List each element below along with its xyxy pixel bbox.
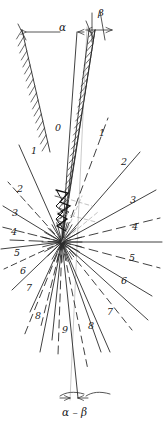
label-left-3: 3 (12, 208, 18, 218)
left-hatched-wall (17, 30, 51, 152)
label-left-6: 6 (20, 266, 26, 276)
label-right-5: 5 (129, 253, 135, 263)
label-alpha: α (59, 22, 66, 33)
left-fan-rays (1, 145, 62, 352)
figure-canvas: α β α – β 0 9 1 2 3 4 5 6 7 8 1 2 3 4 5 … (0, 0, 163, 430)
label-left-1: 1 (31, 146, 37, 156)
label-right-4: 4 (132, 222, 138, 232)
label-right-3: 3 (130, 195, 136, 205)
label-right-8: 8 (88, 321, 94, 331)
alpha-dimension (18, 21, 93, 40)
label-nine: 9 (62, 325, 68, 335)
diagram-svg (0, 0, 163, 430)
label-right-7: 7 (107, 307, 113, 317)
label-left-2: 2 (17, 184, 23, 194)
label-left-8: 8 (35, 311, 41, 321)
label-beta: β (98, 8, 104, 18)
label-right-6: 6 (121, 276, 127, 286)
alpha-minus-beta-dimension (60, 392, 110, 400)
label-alpha-minus-beta: α – β (62, 407, 87, 418)
label-left-7: 7 (26, 283, 32, 293)
label-right-2: 2 (121, 157, 127, 167)
label-left-4: 4 (11, 227, 17, 237)
label-right-1: 1 (99, 128, 105, 138)
label-zero: 0 (55, 123, 61, 133)
label-left-5: 5 (14, 248, 20, 258)
